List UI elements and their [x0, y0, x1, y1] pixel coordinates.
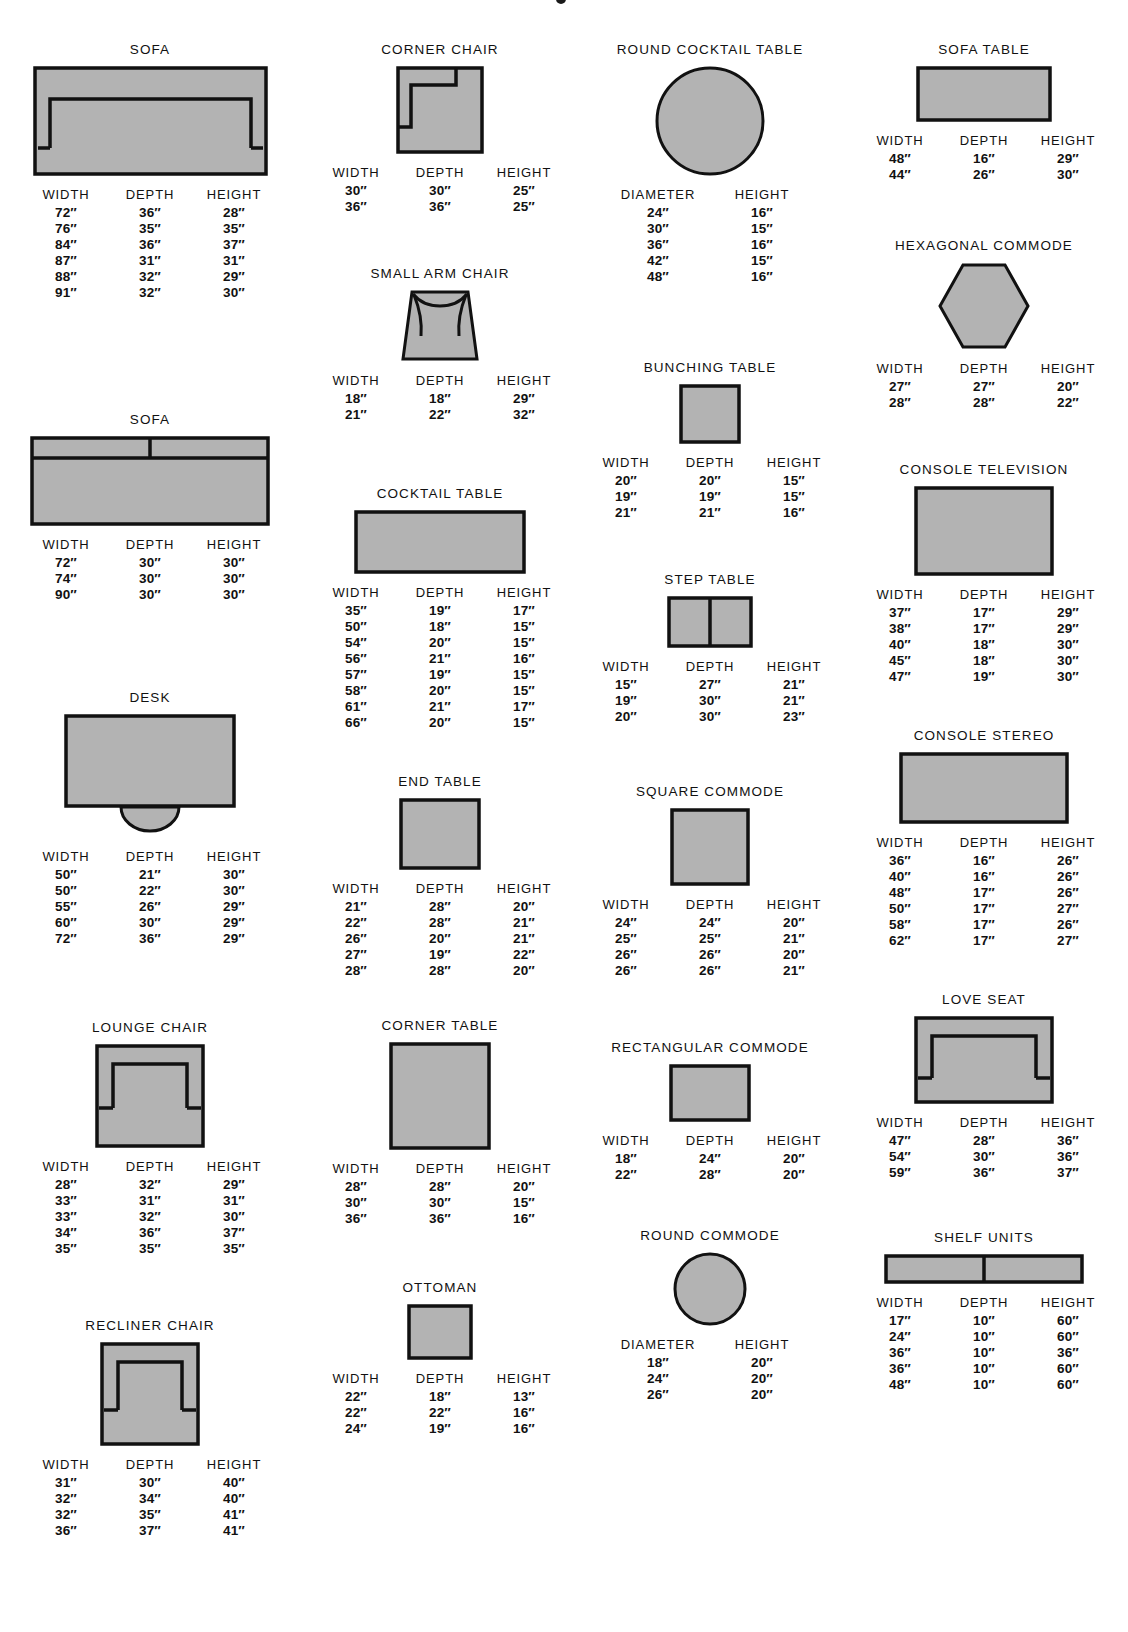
table-row: 31″30″40″ — [24, 1474, 276, 1490]
table-header-row: WIDTHDEPTHHEIGHT — [314, 373, 566, 390]
furniture-entry-small-arm-chair: SMALL ARM CHAIRWIDTHDEPTHHEIGHT18″18″29″… — [300, 266, 580, 422]
furniture-entry-recliner-chair: RECLINER CHAIRWIDTHDEPTHHEIGHT31″30″40″3… — [0, 1318, 300, 1538]
dimensions-table: WIDTHDEPTHHEIGHT17″10″60″24″10″60″36″10″… — [858, 1295, 1110, 1392]
entry-title: LOUNGE CHAIR — [92, 1020, 208, 1035]
dimension-value: 26″ — [606, 1386, 710, 1402]
dimension-value: 60″ — [1026, 1328, 1110, 1344]
dimension-value: 30″ — [108, 1474, 192, 1490]
column-header: DEPTH — [108, 1159, 192, 1176]
dimension-value: 19″ — [584, 488, 668, 504]
dimension-value: 18″ — [398, 390, 482, 406]
table-header-row: WIDTHDEPTHHEIGHT — [858, 587, 1110, 604]
table-row: 22″28″20″ — [584, 1166, 836, 1182]
table-row: 33″32″30″ — [24, 1208, 276, 1224]
column-header: WIDTH — [584, 455, 668, 472]
dimension-value: 26″ — [314, 930, 398, 946]
dimension-value: 60″ — [1026, 1376, 1110, 1392]
dimension-value: 26″ — [668, 962, 752, 978]
dimension-value: 61″ — [314, 698, 398, 714]
dimension-value: 15″ — [482, 682, 566, 698]
column-header: WIDTH — [314, 881, 398, 898]
column-header: HEIGHT — [752, 1133, 836, 1150]
dimension-value: 35″ — [108, 1506, 192, 1522]
column-header: HEIGHT — [752, 897, 836, 914]
table-row: 48″17″26″ — [858, 884, 1110, 900]
shape-end-table-icon — [399, 798, 481, 870]
table-row: 36″16″26″ — [858, 852, 1110, 868]
table-row: 36″10″60″ — [858, 1360, 1110, 1376]
table-row: 47″19″30″ — [858, 668, 1110, 684]
table-row: 50″21″30″ — [24, 866, 276, 882]
dimension-value: 35″ — [108, 220, 192, 236]
shape-hexagonal-commode-icon — [937, 262, 1031, 350]
dimension-value: 60″ — [1026, 1312, 1110, 1328]
table-row: 48″16″29″ — [858, 150, 1110, 166]
shape-recliner-chair-icon — [100, 1342, 200, 1446]
dimension-value: 21″ — [314, 406, 398, 422]
dimension-value: 50″ — [24, 882, 108, 898]
column-header: HEIGHT — [1026, 587, 1110, 604]
dimension-value: 36″ — [1026, 1148, 1110, 1164]
dimension-value: 10″ — [942, 1376, 1026, 1392]
dimension-value: 20″ — [482, 1178, 566, 1194]
dimensions-table: WIDTHDEPTHHEIGHT72″30″30″74″30″30″90″30″… — [24, 537, 276, 602]
furniture-entry-lounge-chair: LOUNGE CHAIRWIDTHDEPTHHEIGHT28″32″29″33″… — [0, 1020, 300, 1256]
dimension-value: 47″ — [858, 668, 942, 684]
dimension-value: 36″ — [1026, 1132, 1110, 1148]
dimension-value: 45″ — [858, 652, 942, 668]
dimension-value: 17″ — [942, 620, 1026, 636]
dimension-value: 48″ — [606, 268, 710, 284]
dimension-value: 19″ — [942, 668, 1026, 684]
column-header: DEPTH — [398, 165, 482, 182]
table-header-row: WIDTHDEPTHHEIGHT — [584, 1133, 836, 1150]
table-row: 36″36″16″ — [314, 1210, 566, 1226]
table-header-row: WIDTHDEPTHHEIGHT — [584, 659, 836, 676]
dimension-value: 19″ — [398, 1420, 482, 1436]
table-row: 30″30″15″ — [314, 1194, 566, 1210]
table-row: 57″19″15″ — [314, 666, 566, 682]
dimension-value: 30″ — [1026, 652, 1110, 668]
table-row: 38″17″29″ — [858, 620, 1110, 636]
dimension-value: 37″ — [1026, 1164, 1110, 1180]
dimension-value: 18″ — [398, 1388, 482, 1404]
table-header-row: WIDTHDEPTHHEIGHT — [584, 897, 836, 914]
column-header: HEIGHT — [482, 881, 566, 898]
dimension-value: 33″ — [24, 1192, 108, 1208]
dimension-value: 30″ — [192, 1208, 276, 1224]
dimensions-table: WIDTHDEPTHHEIGHT18″18″29″21″22″32″ — [314, 373, 566, 422]
dimension-value: 31″ — [24, 1474, 108, 1490]
table-row: 66″20″15″ — [314, 714, 566, 730]
dimension-value: 22″ — [584, 1166, 668, 1182]
shape-small-arm-chair-icon — [400, 290, 480, 362]
dimension-value: 87″ — [24, 252, 108, 268]
dimension-value: 30″ — [192, 554, 276, 570]
table-row: 28″32″29″ — [24, 1176, 276, 1192]
dimension-value: 27″ — [858, 378, 942, 394]
dimension-value: 15″ — [752, 472, 836, 488]
dimension-value: 28″ — [314, 1178, 398, 1194]
dimension-value: 26″ — [1026, 884, 1110, 900]
dimension-value: 36″ — [398, 198, 482, 214]
entry-title: OTTOMAN — [403, 1280, 478, 1295]
dimension-value: 37″ — [108, 1522, 192, 1538]
dimension-value: 62″ — [858, 932, 942, 948]
dimension-value: 34″ — [108, 1490, 192, 1506]
dimension-value: 32″ — [108, 1208, 192, 1224]
dimension-value: 22″ — [314, 914, 398, 930]
table-row: 88″32″29″ — [24, 268, 276, 284]
dimension-value: 27″ — [1026, 932, 1110, 948]
dimension-value: 10″ — [942, 1360, 1026, 1376]
table-row: 30″15″ — [606, 220, 814, 236]
furniture-entry-sofa-arm: SOFAWIDTHDEPTHHEIGHT72″36″28″76″35″35″84… — [0, 42, 300, 300]
table-header-row: WIDTHDEPTHHEIGHT — [24, 187, 276, 204]
furniture-entry-corner-table: CORNER TABLEWIDTHDEPTHHEIGHT28″28″20″30″… — [300, 1018, 580, 1226]
table-row: 25″25″21″ — [584, 930, 836, 946]
dimension-value: 21″ — [752, 676, 836, 692]
table-row: 58″17″26″ — [858, 916, 1110, 932]
column-header: WIDTH — [584, 659, 668, 676]
table-header-row: WIDTHDEPTHHEIGHT — [24, 1457, 276, 1474]
dimension-value: 18″ — [398, 618, 482, 634]
table-row: 91″32″30″ — [24, 284, 276, 300]
dimension-value: 40″ — [192, 1490, 276, 1506]
dimension-value: 24″ — [668, 914, 752, 930]
